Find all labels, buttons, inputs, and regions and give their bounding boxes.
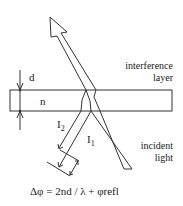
incident-beam (91, 111, 132, 169)
layer-label-line2: layer (153, 72, 174, 83)
layer-label-line1: interference (125, 60, 173, 71)
interference-diagram: d n interference layer incident light I2… (0, 0, 183, 206)
incident-label-line1: incident (141, 140, 173, 151)
beam-in-layer (81, 90, 86, 111)
beam-in-layer-edge (94, 90, 100, 111)
beam-in-layer-inner (86, 90, 91, 111)
ray-i1-label: I1 (87, 133, 95, 148)
path-difference (70, 161, 78, 175)
incident-label-line2: light (155, 152, 174, 163)
index-label: n (40, 95, 46, 107)
phase-formula: Δφ = 2nd / λ + φrefl (30, 185, 119, 197)
thickness-label: d (29, 71, 35, 83)
reflected-beam (50, 17, 96, 90)
ray-i2-label: I2 (57, 118, 65, 133)
